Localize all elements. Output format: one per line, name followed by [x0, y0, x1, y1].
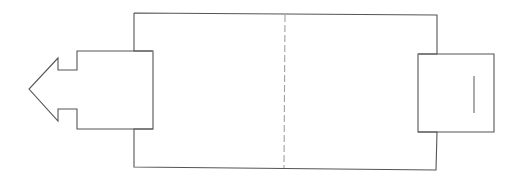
background [0, 0, 518, 181]
folding-template-diagram [0, 0, 518, 181]
